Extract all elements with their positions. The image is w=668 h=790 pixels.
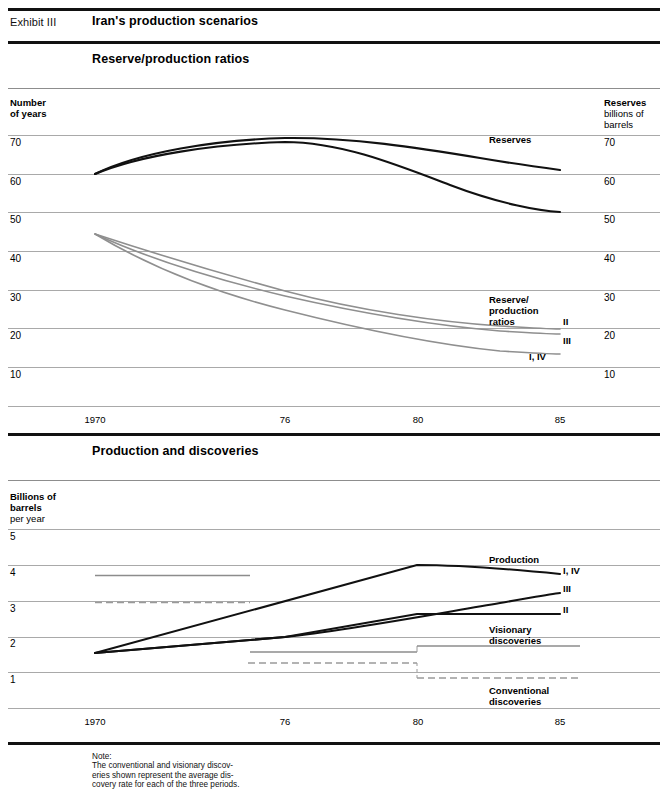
panel1-xtick-76: 76 — [265, 414, 305, 425]
exhibit-label: Exhibit III — [10, 16, 56, 28]
panel1-series-tag-I-IV: I, IV — [529, 351, 546, 362]
panel1-series-tag-II: II — [563, 316, 568, 327]
panel1-band-title: Reserve/production ratios — [92, 52, 249, 66]
panel2-band-title: Production and discoveries — [92, 444, 259, 458]
panel1-xtick-80: 80 — [398, 414, 438, 425]
panel1-ytick-70-left: 70 — [10, 137, 21, 148]
panel1-annotation-ratios-line1: Reserve/ — [489, 294, 529, 305]
panel1-series-tag-III: III — [563, 335, 571, 346]
panel2-ytick-5: 5 — [10, 531, 16, 542]
panel1-left-axis-caption: Number of years — [10, 97, 46, 119]
panel2-annotation-conventional-line1: Conventional — [489, 685, 549, 696]
page-title: Iran's production scenarios — [92, 14, 258, 28]
panel2-annotation-visionary-line1: Visionary — [489, 624, 532, 635]
panel2-xtick-76: 76 — [265, 716, 305, 727]
panel2-rule-under-band — [8, 480, 660, 481]
rule-top — [8, 8, 660, 11]
panel1-left-axis-line1: Number — [10, 97, 46, 108]
panel1-ytick-10-right: 10 — [604, 369, 615, 380]
panel2-left-axis-line1: Billions of — [10, 491, 56, 502]
panel1-annotation-ratios-line2: production — [489, 305, 539, 316]
rule-under-title — [8, 41, 660, 44]
panel2-ytick-1: 1 — [10, 674, 16, 685]
panel2-ytick-2: 2 — [10, 638, 16, 649]
panel2-series-tag-I-IV: I, IV — [563, 565, 580, 576]
panel2-annotation-conventional-line2: discoveries — [489, 696, 541, 707]
exhibit-page: Exhibit III Iran's production scenarios … — [0, 0, 668, 790]
panel1-annotation-ratios-line3: ratios — [489, 316, 515, 327]
panel2-xtick-1970: 1970 — [75, 716, 115, 727]
rule-between-panels — [8, 433, 660, 436]
panel2-plot — [0, 0, 668, 790]
panel1-plot — [0, 0, 668, 790]
panel1-right-axis-line2: billions of — [604, 108, 644, 119]
panel2-left-axis-caption: Billions of barrels per year — [10, 491, 56, 524]
panel2-annotation-visionary-line2: discoveries — [489, 635, 541, 646]
panel2-annotation-visionary: Visionary discoveries — [489, 624, 541, 646]
panel1-right-axis-caption: Reserves billions of barrels — [604, 97, 646, 130]
panel1-right-axis-line1: Reserves — [604, 97, 646, 108]
rule-bottom — [8, 742, 660, 745]
panel2-series-tag-III: III — [563, 583, 571, 594]
panel1-ytick-20-right: 20 — [604, 330, 615, 341]
panel2-ytick-3: 3 — [10, 603, 16, 614]
panel1-rule-under-band — [8, 88, 660, 89]
panel1-ytick-30-right: 30 — [604, 292, 615, 303]
panel1-ytick-40-left: 40 — [10, 253, 21, 264]
panel2-xtick-80: 80 — [398, 716, 438, 727]
panel1-ytick-40-right: 40 — [604, 253, 615, 264]
panel2-annotation-conventional: Conventional discoveries — [489, 685, 549, 707]
panel2-series-tag-II: II — [563, 604, 568, 615]
panel1-series-reserves-lower — [95, 142, 560, 212]
panel1-ytick-20-left: 20 — [10, 330, 21, 341]
panel1-right-axis-line3: barrels — [604, 119, 633, 130]
panel1-xtick-85: 85 — [540, 414, 580, 425]
panel1-ytick-60-right: 60 — [604, 176, 615, 187]
panel2-left-axis-line3: per year — [10, 513, 45, 524]
panel1-left-axis-line2: of years — [10, 108, 46, 119]
panel2-annotation-production: Production — [489, 554, 539, 565]
panel1-xtick-1970: 1970 — [75, 414, 115, 425]
panel1-annotation-ratios: Reserve/ production ratios — [489, 294, 539, 327]
panel1-ytick-70-right: 70 — [604, 137, 615, 148]
panel1-ytick-50-left: 50 — [10, 214, 21, 225]
panel2-ytick-4: 4 — [10, 567, 16, 578]
panel1-annotation-reserves: Reserves — [489, 134, 531, 145]
panel1-ytick-50-right: 50 — [604, 214, 615, 225]
panel1-ytick-30-left: 30 — [10, 292, 21, 303]
panel2-xtick-85: 85 — [540, 716, 580, 727]
panel2-left-axis-line2: barrels — [10, 502, 42, 513]
panel1-ytick-60-left: 60 — [10, 176, 21, 187]
footnote: Note: The conventional and visionary dis… — [92, 752, 239, 790]
panel1-ytick-10-left: 10 — [10, 369, 21, 380]
